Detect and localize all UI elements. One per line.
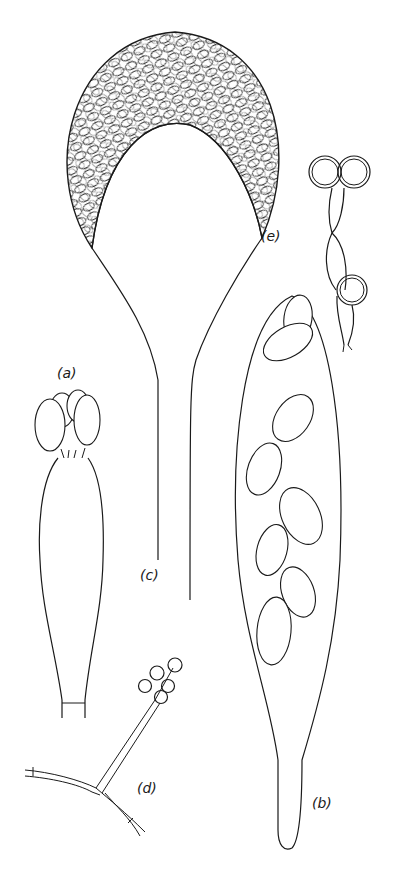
label-b: (b) xyxy=(312,796,332,810)
label-d: (d) xyxy=(137,781,157,795)
panel-a-basidium xyxy=(35,390,103,718)
panel-b-ascus xyxy=(236,293,341,849)
panel-e-chlamydospores xyxy=(309,156,370,352)
label-e: (e) xyxy=(261,229,281,243)
figure-drawing xyxy=(0,0,395,882)
label-a: (a) xyxy=(57,366,77,380)
panel-c-sporangium xyxy=(67,32,279,600)
panel-d-hypha xyxy=(25,658,182,836)
label-c: (c) xyxy=(140,568,159,582)
